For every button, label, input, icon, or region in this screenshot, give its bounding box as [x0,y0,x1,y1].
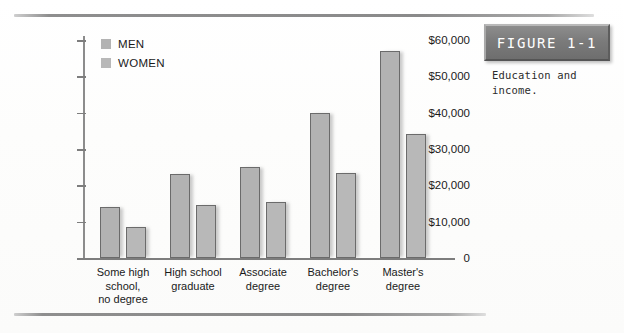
bottom-divider-rule [14,313,486,316]
figure-number-plaque: FIGURE 1-1 [484,24,610,61]
bar-women [406,134,426,258]
legend-label: WOMEN [118,57,165,69]
bar-men [170,174,190,258]
y-axis-tick-label: $60,000 [398,34,470,46]
bar-men [100,207,120,258]
bar-women [126,227,146,258]
bar-men [310,113,330,258]
figure-number-label: FIGURE 1-1 [497,35,597,51]
bar-men [240,167,260,258]
y-axis-tick [77,258,86,260]
y-axis-tick [77,76,86,78]
y-axis-tick-label: $40,000 [398,107,470,119]
y-axis-tick [77,113,86,115]
figure-caption: Education and income. [492,68,618,98]
y-axis-tick [77,40,86,42]
bar-men [380,51,400,258]
legend-swatch-icon [101,39,111,49]
y-axis-tick [77,185,86,187]
legend-label: MEN [118,38,144,50]
legend-swatch-icon [101,58,111,68]
legend-item: MEN [101,38,165,50]
legend-item: WOMEN [101,57,165,69]
y-axis-tick-label: $50,000 [398,70,470,82]
bar-chart-plot: 0$10,000$20,000$30,000$40,000$50,000$60,… [0,0,470,313]
y-axis-tick [77,222,86,224]
bar-women [336,173,356,258]
bar-women [266,202,286,258]
bar-women [196,205,216,258]
x-axis-category-label: Master'sdegree [355,266,451,293]
y-axis-line [83,36,85,260]
figure-container: FIGURE 1-1 Education and income. 0$10,00… [0,0,624,333]
y-axis-tick [77,149,86,151]
chart-legend: MENWOMEN [101,38,165,76]
